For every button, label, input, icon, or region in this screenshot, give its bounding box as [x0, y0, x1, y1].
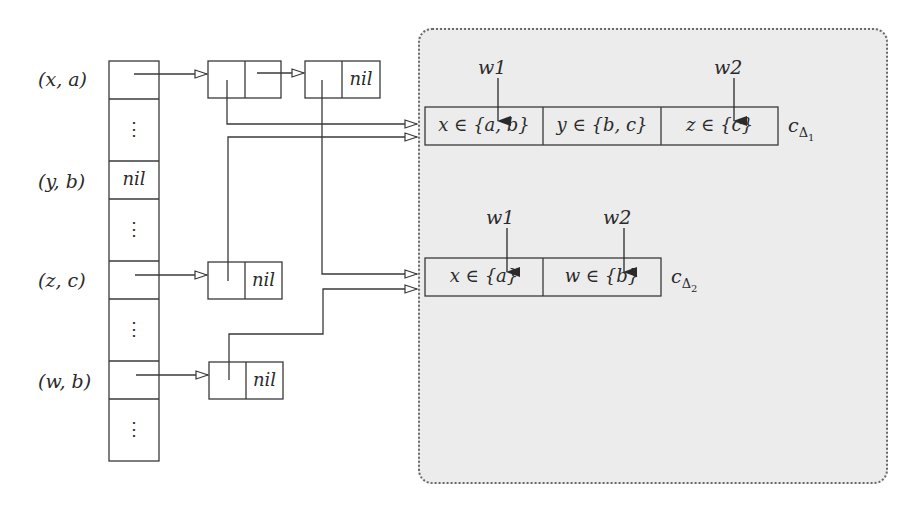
- constraint-1-name: cΔ1: [788, 114, 814, 142]
- constraint-1-cell-z: z ∈ {c}: [661, 114, 778, 135]
- hash-cell-dots-4: ⋮: [109, 418, 159, 439]
- constraint-2-watcher-w2: w2: [603, 206, 631, 228]
- wb-node-nil: nil: [246, 369, 283, 390]
- constraint-2-name: cΔ2: [671, 265, 697, 293]
- constraint-1-watcher-w2: w2: [714, 56, 742, 78]
- constraint-2-cell-x: x ∈ {a}: [425, 265, 543, 286]
- hash-cell-dots-1: ⋮: [109, 118, 159, 139]
- hash-key-xa: (x, a): [38, 68, 87, 90]
- constraint-2-watcher-w1: w1: [486, 206, 514, 228]
- hash-cell-dots-3: ⋮: [109, 318, 159, 339]
- hash-key-zc: (z, c): [38, 269, 86, 291]
- constraint-1-cell-x: x ∈ {a, b}: [425, 114, 543, 135]
- hash-cell-dots-2: ⋮: [109, 218, 159, 239]
- hash-key-wb: (w, b): [38, 370, 91, 392]
- constraint-1-cell-y: y ∈ {b, c}: [543, 114, 661, 135]
- zc-node-nil: nil: [245, 269, 282, 290]
- constraint-2-cell-w: w ∈ {b}: [543, 265, 661, 286]
- constraint-1-watcher-w1: w1: [478, 56, 506, 78]
- hash-cell-nil-yb: nil: [109, 168, 159, 189]
- hash-key-yb: (y, b): [38, 170, 85, 192]
- xa-node2-nil: nil: [342, 68, 380, 89]
